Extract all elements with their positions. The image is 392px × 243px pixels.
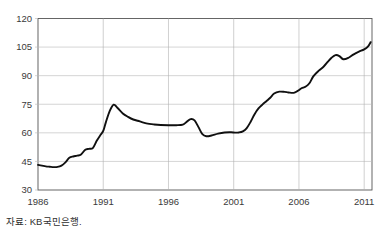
y-axis-tick-label: 90 xyxy=(21,70,32,81)
source-note: 자료: KB국민은행. xyxy=(6,214,82,228)
chart-figure: 3045607590105120 19861991199620012006201… xyxy=(0,0,392,243)
y-axis-tick-label: 30 xyxy=(21,184,32,195)
y-axis-tick-label: 75 xyxy=(21,99,32,110)
x-axis-tick-label: 2001 xyxy=(223,196,244,207)
x-axis-tick-label: 2006 xyxy=(288,196,309,207)
y-axis-tick-labels: 3045607590105120 xyxy=(16,13,38,196)
x-axis-tick-label: 2011 xyxy=(354,196,374,207)
plot-area: 3045607590105120 19861991199620012006201… xyxy=(16,13,374,207)
line-chart: 3045607590105120 19861991199620012006201… xyxy=(0,0,392,243)
x-axis-tick-label: 1991 xyxy=(93,196,114,207)
y-axis-tick-label: 45 xyxy=(21,156,32,167)
x-axis-tick-labels: 198619911996200120062011 xyxy=(27,196,374,207)
y-axis-tick-label: 105 xyxy=(16,41,32,52)
y-axis-tick-label: 60 xyxy=(21,127,32,138)
x-axis-tick-label: 1986 xyxy=(27,196,48,207)
x-axis-tick-label: 1996 xyxy=(158,196,179,207)
y-axis-tick-label: 120 xyxy=(16,13,32,24)
